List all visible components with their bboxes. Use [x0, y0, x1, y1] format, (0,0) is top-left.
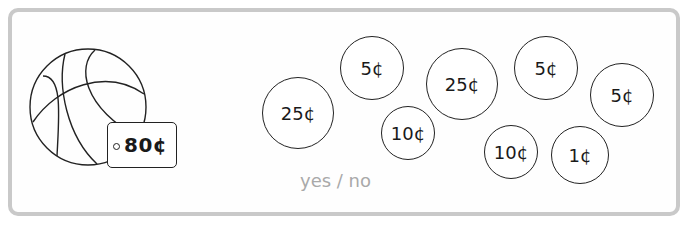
- coin: 1¢: [551, 126, 609, 184]
- price-tag: 80¢: [107, 122, 177, 168]
- price-label: 80¢: [124, 133, 167, 157]
- coin: 25¢: [426, 48, 498, 120]
- coin: 5¢: [590, 63, 654, 127]
- yes-no-answer[interactable]: yes / no: [300, 170, 371, 191]
- coin: 10¢: [381, 106, 435, 160]
- coin: 10¢: [484, 125, 538, 179]
- coin: 5¢: [514, 36, 578, 100]
- coin: 25¢: [262, 77, 334, 149]
- tag-hole-icon: [113, 143, 120, 150]
- coin: 5¢: [340, 36, 404, 100]
